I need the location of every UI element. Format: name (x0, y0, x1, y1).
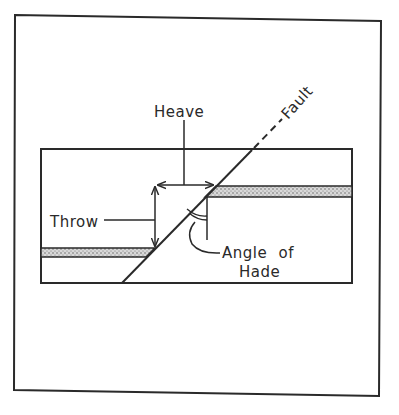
stratum-left-downthrown (41, 248, 155, 257)
angle-of-hade-label-line2: Hade (239, 263, 280, 281)
angle-of-hade-label-line1: Angle of (222, 244, 294, 262)
stratum-right-upthrown (205, 186, 352, 197)
fault-dashed-extension (254, 119, 282, 148)
heave-label: Heave (154, 103, 204, 121)
throw-label: Throw (49, 213, 98, 231)
fault-line (122, 150, 252, 283)
fault-label: Fault (278, 82, 317, 123)
hade-leader-curve (190, 222, 220, 253)
fault-diagram: Heave Throw Fault Angle of Hade (0, 0, 399, 415)
